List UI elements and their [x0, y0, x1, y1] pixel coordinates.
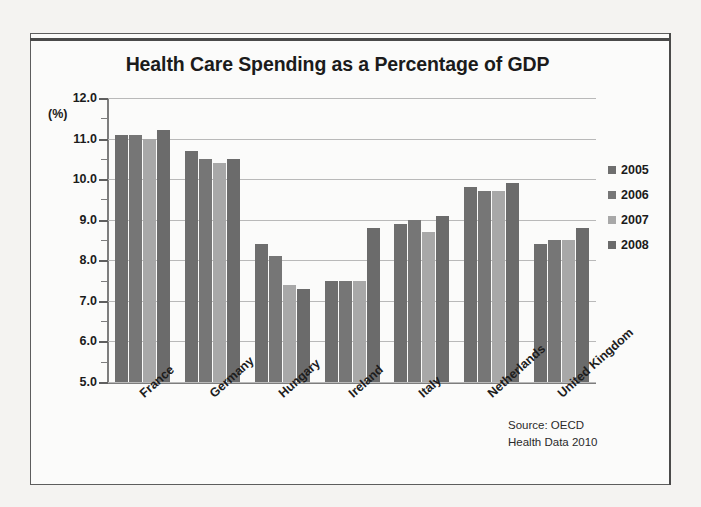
bar — [325, 281, 338, 382]
plot-area: 5.06.07.08.09.010.011.012.0 — [108, 98, 596, 382]
source-line-2: Health Data 2010 — [508, 434, 598, 451]
legend-item[interactable]: 2008 — [608, 232, 678, 257]
chart-legend: 2005200620072008 — [608, 157, 678, 257]
y-tick-minor — [101, 362, 108, 363]
y-tick-label: 11.0 — [73, 132, 97, 146]
y-axis-unit-label: (%) — [48, 107, 67, 121]
bar — [269, 256, 282, 382]
legend-item[interactable]: 2007 — [608, 207, 678, 232]
bar — [548, 240, 561, 382]
y-tick-minor — [101, 118, 108, 119]
bar-group — [115, 98, 170, 382]
bar — [492, 191, 505, 382]
bar — [408, 220, 421, 382]
bar-group — [394, 98, 449, 382]
bar — [394, 224, 407, 382]
bar-group — [534, 98, 589, 382]
y-tick-minor — [101, 159, 108, 160]
legend-label: 2005 — [621, 163, 649, 177]
y-tick-minor — [101, 240, 108, 241]
legend-item[interactable]: 2006 — [608, 182, 678, 207]
y-tick-label: 12.0 — [73, 91, 97, 105]
bar — [185, 151, 198, 382]
y-tick-major — [99, 98, 108, 100]
source-note: Source: OECD Health Data 2010 — [508, 417, 598, 451]
legend-label: 2006 — [621, 188, 649, 202]
y-tick-label: 9.0 — [80, 213, 97, 227]
bar — [199, 159, 212, 382]
y-tick-minor — [101, 199, 108, 200]
y-tick-major — [99, 220, 108, 222]
bar-chart: Health Care Spending as a Percentage of … — [40, 45, 662, 475]
y-tick-major — [99, 341, 108, 343]
y-tick-major — [99, 382, 108, 384]
bar — [506, 183, 519, 382]
legend-item[interactable]: 2005 — [608, 157, 678, 182]
y-tick-label: 6.0 — [80, 334, 97, 348]
bar — [436, 216, 449, 382]
y-tick-major — [99, 139, 108, 141]
legend-label: 2007 — [621, 213, 649, 227]
scanned-page: Health Care Spending as a Percentage of … — [0, 0, 701, 507]
chart-title: Health Care Spending as a Percentage of … — [60, 53, 615, 76]
legend-swatch-icon — [608, 241, 616, 249]
legend-label: 2008 — [621, 238, 649, 252]
bar — [464, 187, 477, 382]
source-line-1: Source: OECD — [508, 417, 598, 434]
bar — [478, 191, 491, 382]
bar-group — [185, 98, 240, 382]
y-tick-major — [99, 301, 108, 303]
bar — [576, 228, 589, 382]
bar — [157, 130, 170, 382]
legend-swatch-icon — [608, 191, 616, 199]
bar-group — [464, 98, 519, 382]
bar — [422, 232, 435, 382]
frame-right-rule — [669, 33, 671, 485]
frame-top-rule — [30, 38, 671, 41]
bar — [227, 159, 240, 382]
bar — [115, 135, 128, 382]
legend-swatch-icon — [608, 166, 616, 174]
bar — [255, 244, 268, 382]
bar — [129, 135, 142, 382]
y-tick-label: 8.0 — [80, 253, 97, 267]
legend-swatch-icon — [608, 216, 616, 224]
y-tick-label: 7.0 — [80, 294, 97, 308]
y-tick-minor — [101, 281, 108, 282]
bar — [143, 139, 156, 382]
y-tick-label: 10.0 — [73, 172, 97, 186]
bar — [367, 228, 380, 382]
y-tick-major — [99, 260, 108, 262]
y-tick-label: 5.0 — [80, 375, 97, 389]
bar — [213, 163, 226, 382]
bar — [353, 281, 366, 382]
bar — [283, 285, 296, 382]
bar-group — [325, 98, 380, 382]
bar-group — [255, 98, 310, 382]
bar — [339, 281, 352, 382]
bar — [562, 240, 575, 382]
y-tick-major — [99, 179, 108, 181]
y-tick-minor — [101, 321, 108, 322]
